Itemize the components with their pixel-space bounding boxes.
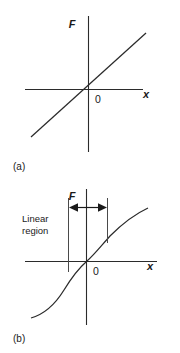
panel-b-linear-region-arrow <box>69 203 107 211</box>
panel-a-y-axis-label: F <box>69 18 76 30</box>
arrow-head-left-icon <box>69 203 78 211</box>
panel-b-linear-region-label-line1: Linear <box>22 213 48 224</box>
panel-a-origin-label: 0 <box>95 93 101 105</box>
figure-container: F x 0 (a) F x 0 Linear regi <box>0 0 180 353</box>
panel-b-caption: (b) <box>13 333 25 344</box>
panel-b-nonlinear-curve <box>31 208 148 318</box>
panel-b-origin-label: 0 <box>93 265 99 277</box>
force-displacement-figure: F x 0 (a) F x 0 Linear regi <box>0 0 180 353</box>
panel-b-x-axis-label: x <box>146 260 154 272</box>
panel-a-caption: (a) <box>13 161 25 172</box>
panel-b-y-axis-label: F <box>69 190 76 202</box>
arrow-head-right-icon <box>98 203 107 211</box>
panel-b: F x 0 Linear region (b) <box>13 189 157 344</box>
panel-b-linear-region-label-line2: region <box>22 225 48 236</box>
panel-a-x-axis-label: x <box>142 88 150 100</box>
panel-a: F x 0 (a) <box>13 16 150 172</box>
